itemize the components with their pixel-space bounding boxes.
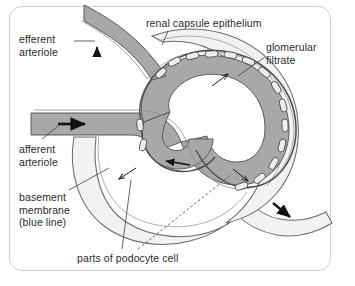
label-afferent-arteriole: afferentarteriole [19, 143, 58, 168]
label-basement-membrane: basementmembrane(blue line) [19, 191, 70, 229]
podocyte-process [136, 119, 143, 132]
label-afferent-line1: afferent [19, 143, 55, 155]
figure-root: efferentarteriole afferentarteriole base… [0, 0, 355, 286]
label-renal-capsule-epithelium: renal capsule epithelium [146, 17, 262, 30]
label-basement-line3: (blue line) [19, 216, 66, 228]
podocyte-process [224, 51, 238, 59]
label-afferent-line2: arteriole [19, 156, 58, 168]
podocyte-process [282, 119, 288, 132]
label-glomerular-filtrate: glomerularfiltrate [266, 41, 317, 66]
label-glomerular-line1: glomerular [266, 41, 317, 53]
filtration-arrow-upper [212, 74, 228, 86]
label-efferent-line1: efferent [19, 33, 55, 45]
podocyte-process [205, 51, 218, 58]
label-efferent-line2: arteriole [19, 46, 58, 58]
label-glomerular-line2: filtrate [266, 54, 295, 66]
label-efferent-arteriole: efferentarteriole [19, 33, 58, 58]
label-basement-line1: basement [19, 191, 66, 203]
filtrate-outflow-arrow [273, 203, 290, 217]
filtration-arrow-lower-left [119, 168, 136, 179]
label-basement-line2: membrane [19, 204, 70, 216]
label-parts-of-podocyte-cell: parts of podocyte cell [77, 252, 178, 265]
